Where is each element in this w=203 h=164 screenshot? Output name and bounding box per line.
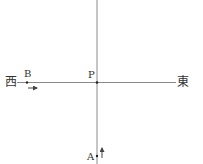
point-p-dot (96, 81, 99, 84)
point-b-dot (26, 81, 28, 83)
point-p-label: P (88, 70, 95, 80)
point-a-label: A (87, 152, 94, 162)
direction-diagram: 西 東 P B A (0, 0, 203, 164)
point-b-label: B (24, 69, 31, 79)
diagram-svg (0, 0, 203, 164)
west-label: 西 (5, 76, 17, 88)
point-a-dot (96, 155, 98, 157)
east-label: 東 (177, 76, 189, 88)
